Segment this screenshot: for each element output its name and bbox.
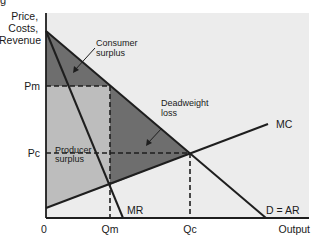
pc-label: Pc <box>28 147 40 159</box>
demand-label: D = AR <box>266 204 300 216</box>
x-axis-label: Output <box>278 223 310 235</box>
mc-label: MC <box>276 118 293 130</box>
mr-label: MR <box>127 204 144 216</box>
monopoly-deadweight-loss-diagram: Price, Costs, Revenue Pm Pc 0 Qm Qc Outp… <box>0 0 319 243</box>
origin-label: 0 <box>41 223 47 235</box>
qc-label: Qc <box>183 223 196 235</box>
pm-label: Pm <box>24 80 40 92</box>
y-axis-label: Price, Costs, Revenue <box>0 10 41 46</box>
qm-label: Qm <box>102 223 119 235</box>
